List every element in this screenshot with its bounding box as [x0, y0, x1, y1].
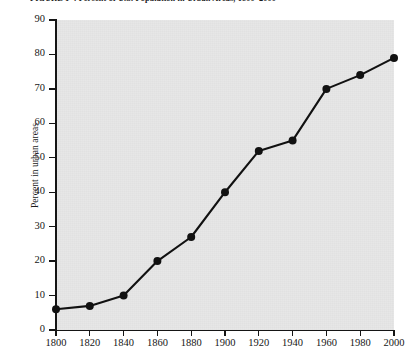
- data-point-marker: [221, 188, 229, 196]
- series-line: [56, 58, 394, 309]
- data-point-marker: [86, 302, 94, 310]
- data-point-marker: [120, 292, 128, 300]
- series-markers: [52, 54, 398, 313]
- data-point-marker: [52, 305, 60, 313]
- data-point-marker: [289, 137, 297, 145]
- data-point-marker: [187, 233, 195, 241]
- data-point-marker: [390, 54, 398, 62]
- data-point-marker: [255, 147, 263, 155]
- data-point-marker: [356, 71, 364, 79]
- line-chart: 0102030405060708090 18001820184018601880…: [0, 0, 416, 358]
- data-series-layer: [0, 0, 416, 358]
- data-point-marker: [153, 257, 161, 265]
- data-point-marker: [322, 85, 330, 93]
